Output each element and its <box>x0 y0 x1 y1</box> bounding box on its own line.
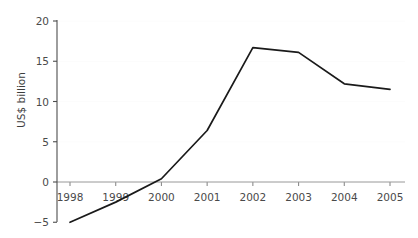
x-tick-label: 2005 <box>377 191 404 203</box>
y-tick-label: 15 <box>36 55 49 67</box>
x-tick-label: 2004 <box>331 191 358 203</box>
y-tick-label: −5 <box>34 216 49 228</box>
x-tick-label: 1998 <box>57 191 84 203</box>
x-tick-label: 2003 <box>285 191 312 203</box>
chart-canvas: −505101520 19981999200020012002200320042… <box>0 0 418 238</box>
x-tick-label: 2001 <box>194 191 221 203</box>
y-tick-label: 0 <box>42 176 49 188</box>
x-tick-label: 2002 <box>239 191 266 203</box>
y-tick-label: 10 <box>36 96 49 108</box>
line-chart: −505101520 19981999200020012002200320042… <box>0 0 418 238</box>
y-axis-title: US$ billion <box>15 72 27 128</box>
x-tick-label: 2000 <box>148 191 175 203</box>
y-tick-label: 5 <box>42 136 49 148</box>
y-tick-label: 20 <box>36 15 49 27</box>
